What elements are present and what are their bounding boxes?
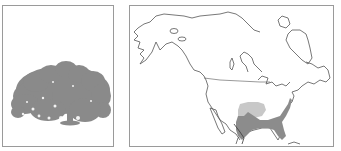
lake-winnipeg [230,58,234,70]
baffin-island [286,30,312,64]
great-lakes [258,76,290,86]
alaska-coastline [138,12,260,32]
pacific-coastline [186,56,240,140]
tree-silhouette-icon [3,6,113,146]
alaska-west-coast [134,28,186,64]
great-slave-lake [178,37,186,41]
hudson-bay [240,52,262,72]
range-map-panel [129,5,334,147]
great-bear-lake [170,29,178,34]
baja-peninsula [210,108,225,134]
cuba [288,142,300,144]
quebec-labrador-coast [292,62,330,92]
us-canada-border [204,78,270,82]
tree-image-panel [2,5,114,147]
arctic-island-1 [278,16,290,28]
north-america-map [130,6,333,146]
